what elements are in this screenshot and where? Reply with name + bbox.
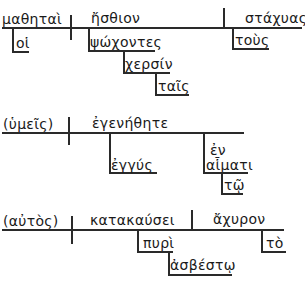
participle-modifier-line [123, 72, 170, 74]
preposition-stem [203, 132, 205, 172]
object-modifier-word: τοὺς [235, 32, 270, 48]
baseline-2 [2, 132, 244, 134]
instrument-word: πυρὶ [143, 235, 174, 251]
article-line [155, 94, 189, 96]
object-modifier-stem [261, 229, 263, 251]
modifier-line [12, 51, 29, 53]
object-modifier-word: τὸ [266, 235, 284, 251]
verb-word: ἤσθιον [91, 10, 140, 26]
subject-verb-divider-1 [70, 15, 72, 40]
baseline-1 [2, 27, 302, 29]
instrument-stem [137, 229, 139, 251]
prep-object-word: αἷματι [206, 157, 253, 173]
participle-modifier-word: χερσίν [125, 56, 173, 72]
prep-object-article-word: τῷ [224, 177, 245, 193]
prep-article-stem [221, 172, 223, 193]
instrument-modifier-line [168, 274, 232, 276]
subject-word: (αὐτὸς) [3, 213, 59, 229]
adverb-word: ἐγγύς [111, 157, 153, 173]
prep-article-line [221, 193, 243, 195]
modifier-stem [12, 27, 14, 51]
object-word: ἄχυρον [213, 211, 266, 227]
participle-word: ψώχοντες [90, 34, 162, 50]
subject-word: μαθηταὶ [2, 11, 62, 27]
object-word: στάχυας [245, 10, 305, 26]
verb-object-divider-3 [191, 210, 193, 229]
object-modifier-line [261, 251, 286, 253]
subject-modifier-word: οἱ [16, 35, 30, 51]
article-stem [155, 72, 157, 94]
object-modifier-stem [232, 27, 234, 48]
subject-verb-divider-3 [71, 216, 73, 244]
subject-verb-divider-2 [68, 117, 70, 145]
verb-word: ἐγενήθητε [92, 115, 168, 131]
subject-word: (ὑμεῖς) [3, 116, 54, 132]
preposition-word: ἐν [210, 142, 226, 158]
verb-word: κατακαύσει [90, 212, 175, 228]
object-modifier-line [232, 48, 269, 50]
participle-line [88, 50, 155, 52]
instrument-modifier-word: ἀσβέστῳ [170, 257, 236, 273]
baseline-3 [2, 229, 284, 231]
participle-modifier-article-word: ταῖς [158, 78, 190, 94]
verb-object-divider-1 [223, 8, 225, 27]
